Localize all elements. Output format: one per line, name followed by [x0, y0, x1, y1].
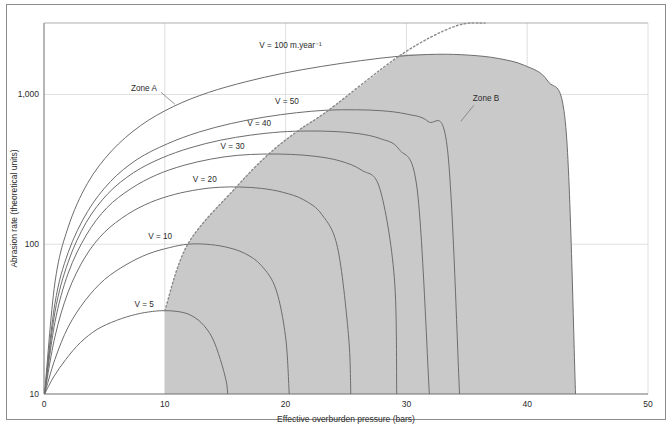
x-axis-title: Effective overburden pressure (bars)	[277, 414, 415, 424]
y-tick-label: 1,000	[18, 89, 40, 99]
figure-container: 01020304050101001,000Effective overburde…	[0, 0, 672, 430]
x-tick-label: 40	[522, 399, 532, 409]
y-tick-label: 100	[25, 239, 39, 249]
series-label-v-5: V = 5	[135, 300, 155, 309]
y-tick-label: 10	[30, 389, 40, 399]
series-label-v-30: V = 30	[221, 142, 245, 151]
zone-a-label: Zone A	[131, 84, 157, 93]
x-tick-label: 30	[402, 399, 412, 409]
series-label-v-50: V = 50	[275, 97, 299, 106]
series-label-v-100: V = 100 m.year⁻¹	[259, 41, 322, 50]
x-tick-label: 20	[281, 399, 291, 409]
x-tick-label: 50	[643, 399, 653, 409]
abrasion-rate-chart: 01020304050101001,000Effective overburde…	[0, 0, 672, 430]
series-label-v-40: V = 40	[247, 119, 271, 128]
y-axis-title: Abrasion rate (theoretical units)	[9, 149, 19, 267]
series-label-v-10: V = 10	[148, 232, 172, 241]
zone-b-label: Zone B	[473, 94, 500, 103]
x-tick-label: 10	[160, 399, 170, 409]
series-label-v-20: V = 20	[193, 175, 217, 184]
x-tick-label: 0	[42, 399, 47, 409]
